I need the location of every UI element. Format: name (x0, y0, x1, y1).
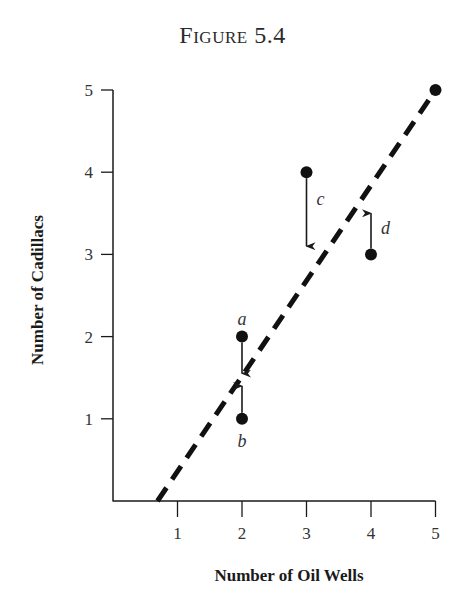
point-label-d: d (381, 218, 391, 238)
regression-line-dashed (158, 90, 436, 501)
y-axis-label: Number of Cadillacs (28, 215, 48, 365)
point-label-c: c (317, 189, 325, 209)
data-point (236, 413, 248, 425)
data-point (301, 166, 313, 178)
x-tick-label: 4 (367, 524, 376, 543)
data-point (236, 331, 248, 343)
y-tick-label: 3 (85, 245, 94, 264)
x-tick-label: 1 (173, 524, 182, 543)
x-tick-label: 5 (431, 524, 440, 543)
y-tick-label: 5 (85, 81, 94, 100)
scatter-plot: 1234512345abcd (0, 0, 465, 610)
data-point (365, 248, 377, 260)
point-label-b: b (238, 431, 247, 451)
x-tick-label: 3 (302, 524, 311, 543)
y-tick-label: 2 (85, 328, 94, 347)
x-axis-label: Number of Oil Wells (113, 566, 465, 586)
y-tick-label: 4 (85, 163, 94, 182)
point-label-a: a (238, 309, 247, 329)
y-tick-label: 1 (85, 410, 94, 429)
x-tick-label: 2 (238, 524, 247, 543)
data-point (430, 84, 442, 96)
